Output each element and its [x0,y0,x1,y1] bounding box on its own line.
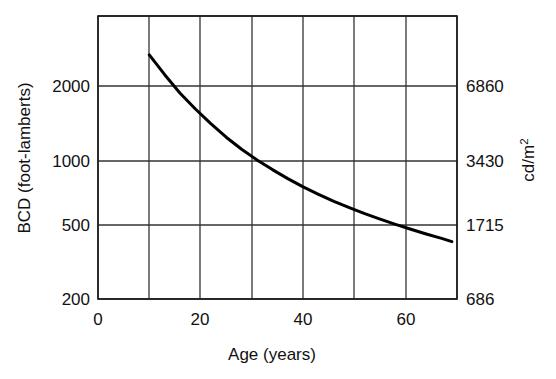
chart-svg: 2000 1000 500 200 6860 3430 1715 686 0 2… [0,0,556,379]
y2-axis-title-exponent: 2 [518,138,530,144]
y-ticklabel-2000: 2000 [52,77,90,96]
y2-axis-title-base: cd/m [519,145,538,182]
x-ticklabel-40: 40 [294,310,313,329]
y2-ticklabel-3430: 3430 [466,152,504,171]
x-axis-title: Age (years) [228,345,316,364]
y-ticklabel-1000: 1000 [52,152,90,171]
chart-figure: 2000 1000 500 200 6860 3430 1715 686 0 2… [0,0,556,379]
x-ticklabel-60: 60 [397,310,416,329]
y-ticklabel-200: 200 [62,290,90,309]
y-axis-title: BCD (foot-lamberts) [15,82,34,233]
x-ticklabel-20: 20 [191,310,210,329]
svg-text:cd/m2: cd/m2 [518,138,538,181]
y-ticklabel-500: 500 [62,216,90,235]
x-axis-ticklabels: 0 20 40 60 [93,310,415,329]
y2-axis-title: cd/m2 [518,138,538,181]
y2-ticklabel-1715: 1715 [466,216,504,235]
y2-ticklabel-6860: 6860 [466,77,504,96]
y2-axis-ticklabels: 6860 3430 1715 686 [466,77,504,309]
x-ticklabel-0: 0 [93,310,102,329]
y2-ticklabel-686: 686 [466,290,494,309]
y-axis-ticklabels: 2000 1000 500 200 [52,77,90,309]
